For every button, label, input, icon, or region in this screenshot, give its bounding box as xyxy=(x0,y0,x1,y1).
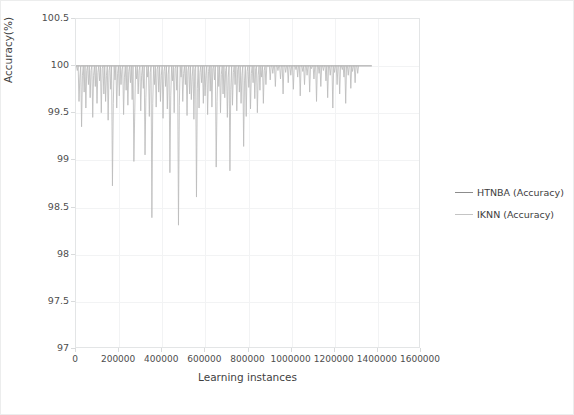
plot-area xyxy=(75,18,420,348)
x-tick-mark xyxy=(291,348,292,352)
x-tick-label: 1600000 xyxy=(400,354,440,364)
legend-item[interactable]: HTNBA (Accuracy) xyxy=(455,183,570,201)
y-tick-label: 99.5 xyxy=(29,106,69,117)
x-tick-label: 0 xyxy=(72,354,78,364)
x-tick-mark xyxy=(75,348,76,352)
y-tick-label: 99 xyxy=(29,153,69,164)
chart-legend: HTNBA (Accuracy)IKNN (Accuracy) xyxy=(455,183,570,227)
x-tick-label: 200000 xyxy=(101,354,135,364)
y-tick-label: 100 xyxy=(29,59,69,70)
accuracy-vs-learning-instances-chart: Accuracy(%) 9797.59898.59999.5100100.5 0… xyxy=(0,0,574,415)
x-tick-mark xyxy=(377,348,378,352)
x-tick-mark xyxy=(204,348,205,352)
x-tick-label: 1400000 xyxy=(357,354,397,364)
x-tick-mark xyxy=(420,348,421,352)
x-tick-mark xyxy=(118,348,119,352)
y-tick-label: 98 xyxy=(29,248,69,259)
series-lines xyxy=(76,19,419,347)
y-tick-label: 98.5 xyxy=(29,201,69,212)
x-tick-label: 1000000 xyxy=(271,354,311,364)
x-tick-mark xyxy=(248,348,249,352)
x-tick-label: 1200000 xyxy=(314,354,354,364)
x-tick-mark xyxy=(334,348,335,352)
x-axis-title: Learning instances xyxy=(75,371,420,383)
y-tick-label: 97 xyxy=(29,342,69,353)
x-tick-label: 800000 xyxy=(230,354,264,364)
legend-swatch-iknn xyxy=(455,214,473,215)
y-axis-title: Accuracy(%) xyxy=(2,0,14,120)
x-tick-label: 400000 xyxy=(144,354,178,364)
legend-item[interactable]: IKNN (Accuracy) xyxy=(455,205,570,223)
y-tick-label: 100.5 xyxy=(29,12,69,23)
legend-label: IKNN (Accuracy) xyxy=(477,209,554,220)
series-line xyxy=(76,66,358,225)
y-tick-label: 97.5 xyxy=(29,295,69,306)
legend-swatch-htnba xyxy=(455,192,473,193)
x-tick-label: 600000 xyxy=(187,354,221,364)
x-tick-mark xyxy=(161,348,162,352)
legend-label: HTNBA (Accuracy) xyxy=(477,187,564,198)
